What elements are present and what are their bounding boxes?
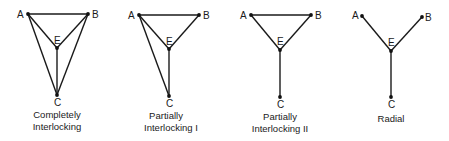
network-topology-diagrams: A B E C Completely Interlocking A B E C … xyxy=(0,0,449,141)
edge-b-e xyxy=(391,17,422,51)
caption-line-2: Interlocking II xyxy=(252,123,309,134)
node-label-e: E xyxy=(277,36,284,47)
edge-b-e xyxy=(169,15,199,49)
node-label-c: C xyxy=(388,99,395,110)
node-label-b: B xyxy=(203,10,210,21)
node-e xyxy=(55,46,59,50)
node-label-e: E xyxy=(388,37,395,48)
node-a xyxy=(249,13,253,17)
caption-line-1: Radial xyxy=(378,113,405,124)
node-b xyxy=(420,15,424,19)
edge-a-e xyxy=(362,16,391,51)
node-a xyxy=(360,14,364,18)
diagram-partially-interlocking-2: A B E C Partially Interlocking II xyxy=(240,10,322,134)
node-e xyxy=(278,48,282,52)
node-label-a: A xyxy=(352,10,359,21)
node-a xyxy=(26,12,30,16)
node-label-b: B xyxy=(315,10,322,21)
diagram-partially-interlocking-1: A B E C Partially Interlocking I xyxy=(128,10,210,133)
node-label-a: A xyxy=(17,9,24,20)
node-a xyxy=(137,13,141,17)
edge-a-e xyxy=(251,15,280,50)
node-label-c: C xyxy=(277,99,284,110)
caption-line-1: Partially xyxy=(149,110,183,121)
node-b xyxy=(197,13,201,17)
caption-line-1: Completely xyxy=(33,109,81,120)
node-label-a: A xyxy=(128,10,135,21)
edge-a-c xyxy=(139,15,169,96)
edge-a-e xyxy=(28,14,57,48)
node-e xyxy=(167,47,171,51)
node-label-b: B xyxy=(425,12,432,23)
diagram-completely-interlocking: A B E C Completely Interlocking xyxy=(17,9,99,132)
edge-a-e xyxy=(139,15,169,49)
caption-line-2: Interlocking I xyxy=(144,122,198,133)
caption-line-2: Interlocking xyxy=(33,121,82,132)
node-label-e: E xyxy=(166,36,173,47)
edge-b-e xyxy=(280,15,311,50)
node-e xyxy=(389,49,393,53)
node-b xyxy=(309,13,313,17)
edge-b-c xyxy=(57,14,88,95)
node-label-c: C xyxy=(54,97,61,108)
node-label-c: C xyxy=(166,98,173,109)
edge-a-c xyxy=(28,14,57,95)
node-label-e: E xyxy=(54,35,61,46)
node-label-b: B xyxy=(92,9,99,20)
edge-b-e xyxy=(57,14,88,48)
node-b xyxy=(86,12,90,16)
node-label-a: A xyxy=(240,10,247,21)
diagram-radial: A B E C Radial xyxy=(352,10,432,124)
caption-line-1: Partially xyxy=(263,111,297,122)
